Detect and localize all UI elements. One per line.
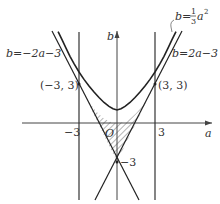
a-axis-arrow-icon xyxy=(205,121,212,126)
b-axis-arrow-icon xyxy=(115,31,120,38)
tick-b-neg3: −3 xyxy=(120,156,136,169)
svg-text:a: a xyxy=(197,10,204,23)
label-line-neg: b=−2a−3 xyxy=(6,47,61,60)
point-label-3-3: (3, 3) xyxy=(158,79,188,92)
diagram-canvas: b a O −3 3 −3 (−3, 3) (3, 3) b=−2a−3 b=2… xyxy=(0,0,220,204)
a-axis-label: a xyxy=(205,127,212,140)
svg-text:2: 2 xyxy=(204,8,208,16)
label-line-pos: b=2a−3 xyxy=(172,47,218,60)
point-0-neg3 xyxy=(116,161,119,164)
tick-a-neg3: −3 xyxy=(64,126,80,139)
line-b-neg2a-minus-3 xyxy=(52,31,139,200)
b-axis-label: b xyxy=(107,30,114,43)
label-parabola: b= 1 3 a 2 xyxy=(171,7,209,32)
point-label-neg3-3: (−3, 3) xyxy=(40,79,79,92)
origin-label: O xyxy=(105,127,114,140)
point-3-3 xyxy=(154,83,157,86)
line-b-2a-minus-3 xyxy=(95,31,182,200)
svg-text:b=: b= xyxy=(175,10,191,23)
tick-a-3: 3 xyxy=(158,126,165,139)
svg-text:3: 3 xyxy=(191,17,196,26)
svg-text:1: 1 xyxy=(191,7,196,16)
